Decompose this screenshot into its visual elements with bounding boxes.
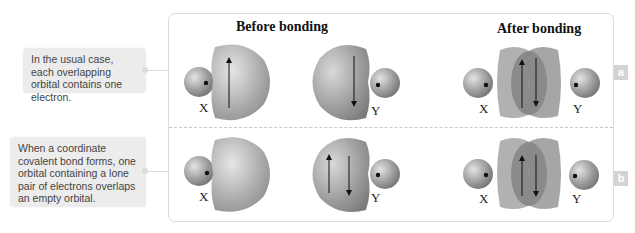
- orbital-y-lone-pair: [313, 138, 370, 212]
- nucleus-dot: [484, 83, 488, 87]
- row-a-before-y: [313, 45, 401, 120]
- overlap-region: [511, 51, 547, 115]
- label-y: Y: [573, 101, 582, 117]
- label-x: X: [479, 101, 488, 117]
- atom-y-sphere: [370, 68, 400, 98]
- atom-y-sphere: [570, 68, 600, 98]
- nucleus-dot: [204, 81, 208, 85]
- atom-y-sphere: [370, 159, 400, 189]
- nucleus-dot: [376, 173, 380, 177]
- orbital-x-empty: [211, 137, 270, 211]
- row-b-before-y: [313, 138, 401, 212]
- atom-x-sphere: [184, 156, 214, 186]
- label-y: Y: [371, 103, 380, 119]
- nucleus-dot: [484, 173, 488, 177]
- orbital-diagram: [0, 0, 635, 233]
- atom-x-sphere: [463, 68, 493, 98]
- row-a-before-x: [184, 44, 270, 120]
- label-x: X: [199, 100, 208, 116]
- label-y: Y: [572, 191, 581, 207]
- nucleus-dot: [205, 171, 209, 175]
- nucleus-dot: [574, 83, 578, 87]
- label-x: X: [199, 189, 208, 205]
- nucleus-dot: [376, 83, 380, 87]
- label-x: X: [479, 191, 488, 207]
- nucleus-dot: [573, 174, 577, 178]
- atom-x-sphere: [184, 67, 214, 97]
- atom-x-sphere: [463, 159, 493, 189]
- orbital-x: [211, 44, 270, 120]
- row-b-before-x: [184, 137, 270, 211]
- overlap-region: [511, 142, 547, 206]
- orbital-y: [313, 45, 370, 120]
- label-y: Y: [371, 190, 380, 206]
